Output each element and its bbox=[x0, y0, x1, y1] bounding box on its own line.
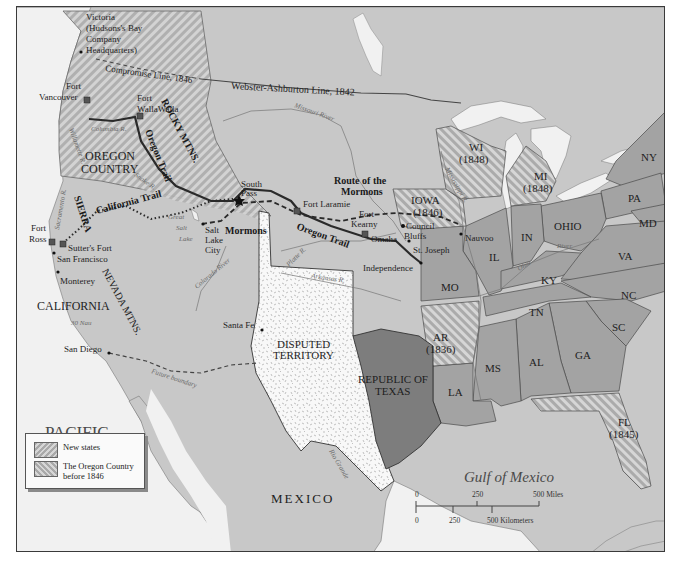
independence-dot bbox=[419, 261, 422, 264]
wi-label: WI bbox=[469, 141, 483, 153]
il-label: IL bbox=[489, 251, 500, 263]
fort-vancouver-label-2: Vancouver bbox=[39, 92, 77, 102]
fort-kearny-label-2: Kearny bbox=[351, 219, 378, 229]
great-salt-lake-label-3: Lake bbox=[178, 235, 193, 243]
fort-kearny-label-1: Fort bbox=[359, 209, 375, 219]
salt-lake-city-label-3: City bbox=[205, 245, 221, 255]
fort-laramie-label: Fort Laramie bbox=[303, 199, 350, 209]
scale-miles-500: 500 Miles bbox=[533, 490, 563, 499]
md-label: MD bbox=[639, 217, 657, 229]
legend-oregon-line-2: before 1846 bbox=[63, 471, 104, 481]
mormons-label: Mormons bbox=[225, 225, 267, 236]
va-label: VA bbox=[618, 250, 633, 262]
map-legend: New states The Oregon Country before 184… bbox=[25, 433, 145, 489]
fort-ross-marker bbox=[49, 239, 55, 245]
gulf-of-mexico-label: Gulf of Mexico bbox=[464, 469, 554, 485]
tn-label: TN bbox=[529, 306, 544, 318]
legend-item-oregon-country: The Oregon Country before 1846 bbox=[34, 461, 134, 481]
ohio-label: OHIO bbox=[554, 220, 582, 232]
victoria-dot bbox=[79, 50, 82, 53]
santa-fe-dot bbox=[260, 328, 263, 331]
route-of-the-label: Route of the bbox=[334, 175, 387, 186]
scale-miles-0: 0 bbox=[415, 490, 419, 499]
legend-oregon-line-1: The Oregon Country bbox=[63, 461, 134, 471]
fort-laramie-marker bbox=[294, 208, 300, 214]
mexico-label: MEXICO bbox=[271, 491, 334, 506]
mo-label: MO bbox=[441, 281, 459, 293]
nauvoo-dot bbox=[459, 232, 462, 235]
council-bluffs-label-1: Council bbox=[406, 221, 435, 231]
california-label: CALIFORNIA bbox=[37, 299, 110, 313]
oregon-label: OREGON bbox=[85, 149, 135, 163]
omaha-label: Omaha bbox=[371, 234, 397, 244]
wi-year: (1848) bbox=[459, 153, 489, 166]
route-mormons-label: Mormons bbox=[341, 186, 383, 197]
in-label: IN bbox=[521, 231, 533, 243]
oregon-country-swatch-icon bbox=[34, 461, 58, 477]
texas-label: TEXAS bbox=[375, 385, 410, 397]
legend-new-states-label: New states bbox=[63, 442, 100, 452]
santa-fe-label: Santa Fe bbox=[223, 320, 254, 330]
san-diego-label: San Diego bbox=[64, 344, 102, 354]
republic-of-label: REPUBLIC OF bbox=[358, 373, 428, 385]
ohio-river-label-2: River bbox=[556, 242, 572, 250]
scale-bar: 0 250 500 Miles 0 250 500 Kilometers bbox=[415, 490, 555, 530]
fort-vancouver-marker bbox=[84, 97, 90, 103]
council-bluffs-label-2: Bluffs bbox=[404, 231, 427, 241]
columbia-river-label: Columbia R. bbox=[91, 125, 127, 133]
sutters-fort-marker bbox=[60, 241, 66, 247]
legend-item-new-states: New states bbox=[34, 442, 100, 458]
ms-label: MS bbox=[485, 362, 501, 374]
ny-label: NY bbox=[641, 151, 657, 163]
victoria-label-1: Victoria bbox=[86, 12, 115, 22]
independence-label: Independence bbox=[363, 263, 413, 273]
ky-label: KY bbox=[541, 274, 557, 286]
new-states-swatch-icon bbox=[34, 442, 58, 458]
fort-vancouver-label-1: Fort bbox=[66, 81, 82, 91]
fort-walla-walla-label-2: WallaWalla bbox=[137, 104, 179, 114]
pa-label: PA bbox=[628, 192, 641, 204]
victoria-label-4: Headquarters) bbox=[86, 45, 137, 55]
country-label: COUNTRY bbox=[81, 162, 139, 176]
nauvoo-label: Nauvoo bbox=[465, 233, 494, 243]
fort-ross-label-1: Fort bbox=[31, 223, 47, 233]
ga-label: GA bbox=[575, 349, 591, 361]
monterey-label: Monterey bbox=[60, 276, 95, 286]
san-francisco-dot bbox=[52, 251, 55, 254]
mi-label: MI bbox=[534, 170, 548, 182]
ar-label: AR bbox=[433, 331, 449, 343]
south-pass-label-2: Pass bbox=[241, 188, 258, 198]
iowa-year: (1846) bbox=[413, 206, 443, 219]
la-label: LA bbox=[448, 386, 463, 398]
scale-bar-line bbox=[415, 501, 545, 515]
mi-year: (1848) bbox=[523, 182, 553, 195]
scale-km-250: 250 bbox=[449, 516, 460, 525]
territory-label: TERRITORY bbox=[273, 349, 334, 361]
fort-ross-label-2: Ross bbox=[29, 234, 47, 244]
map-frame: PACIFIC OCEAN Gulf of Mexico OREGON COUN… bbox=[16, 6, 665, 552]
al-label: AL bbox=[529, 356, 544, 368]
san-francisco-label: San Francisco bbox=[57, 254, 108, 264]
salt-lake-city-label-1: Salt bbox=[205, 225, 220, 235]
scale-km-0: 0 bbox=[415, 516, 419, 525]
fl-year: (1845) bbox=[609, 428, 639, 441]
san-diego-dot bbox=[107, 351, 110, 354]
fl-label: FL bbox=[618, 416, 631, 428]
iowa-label: IOWA bbox=[411, 194, 440, 206]
small-note-label: 30 Nau bbox=[70, 319, 92, 327]
ar-year: (1836) bbox=[426, 343, 456, 356]
great-salt-lake-label-2: Salt bbox=[176, 224, 188, 232]
sutters-fort-label: Sutter's Fort bbox=[68, 243, 112, 253]
monterey-dot bbox=[56, 270, 59, 273]
victoria-label-3: Company bbox=[86, 34, 121, 44]
scale-km-500: 500 Kilometers bbox=[487, 516, 533, 525]
salt-lake-city-label-2: Lake bbox=[205, 235, 223, 245]
st-joseph-label: St. Joseph bbox=[413, 245, 450, 255]
legend-oregon-label: The Oregon Country before 1846 bbox=[63, 461, 134, 481]
fort-walla-walla-label-1: Fort bbox=[137, 93, 153, 103]
great-salt-lake-label-1: Great bbox=[168, 213, 185, 221]
victoria-label-2: (Hudsons's Bay bbox=[86, 23, 143, 33]
fort-kearny-marker bbox=[362, 231, 368, 237]
sc-label: SC bbox=[612, 321, 625, 333]
nc-label: NC bbox=[621, 289, 636, 301]
